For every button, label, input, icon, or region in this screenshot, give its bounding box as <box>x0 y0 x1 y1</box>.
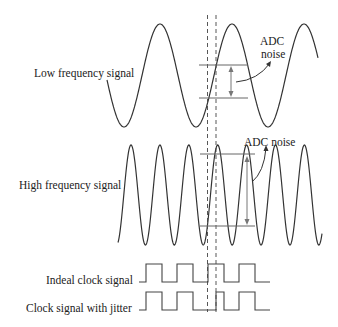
high-frequency-label: High frequency signal <box>19 179 121 192</box>
high-frequency-waveform <box>118 145 322 245</box>
ideal-clock-waveform <box>139 264 270 282</box>
low-noise-pointer-arrow <box>236 63 270 82</box>
low-frequency-waveform <box>107 24 318 127</box>
jitter-clock-label: Clock signal with jitter <box>26 302 132 315</box>
high-noise-pointer-arrow <box>252 148 266 182</box>
low-noise-pointer-arrowhead-icon <box>266 61 271 67</box>
jitter-diagram: Low frequency signal High frequency sign… <box>0 0 338 327</box>
ideal-clock-label: Indeal clock signal <box>46 274 133 287</box>
high-noise-arrowhead-down-icon <box>245 219 250 225</box>
low-frequency-label: Low frequency signal <box>34 67 134 80</box>
jitter-clock-waveform <box>139 292 270 310</box>
adc-noise-low-label-line2: noise <box>261 48 285 60</box>
low-noise-arrowhead-up-icon <box>229 66 234 72</box>
high-noise-arrowhead-up-icon <box>245 156 250 162</box>
adc-noise-low-label-line1: ADC <box>260 35 285 47</box>
low-noise-arrowhead-down-icon <box>229 91 234 97</box>
adc-noise-high-label: ADC noise <box>244 136 295 148</box>
